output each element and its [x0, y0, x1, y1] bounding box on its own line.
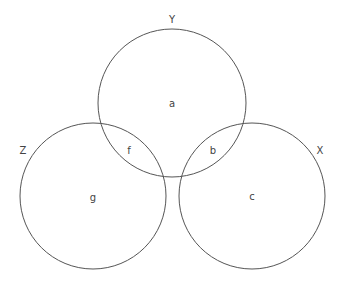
region-label-a: a: [169, 98, 175, 109]
region-label-c: c: [249, 191, 255, 202]
set-label-x: X: [317, 145, 324, 156]
set-label-y: Y: [168, 14, 176, 25]
region-label-g: g: [90, 192, 96, 203]
region-label-f: f: [127, 145, 131, 156]
venn-diagram: YZX afbgc: [0, 0, 342, 290]
set-label-z: Z: [20, 145, 27, 156]
region-label-b: b: [210, 145, 216, 156]
